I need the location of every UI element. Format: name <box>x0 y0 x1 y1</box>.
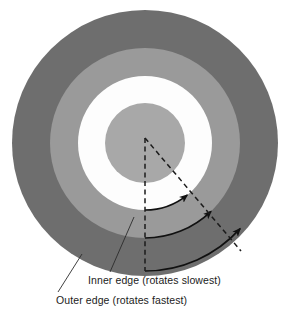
outer-edge-label: Outer edge (rotates fastest) <box>56 294 187 306</box>
diagram-canvas: Inner edge (rotates slowest) Outer edge … <box>0 0 290 317</box>
rotating-disc-diagram: Inner edge (rotates slowest) Outer edge … <box>0 0 290 317</box>
outer-edge-leader-line <box>58 254 82 292</box>
inner-edge-label: Inner edge (rotates slowest) <box>88 274 221 286</box>
